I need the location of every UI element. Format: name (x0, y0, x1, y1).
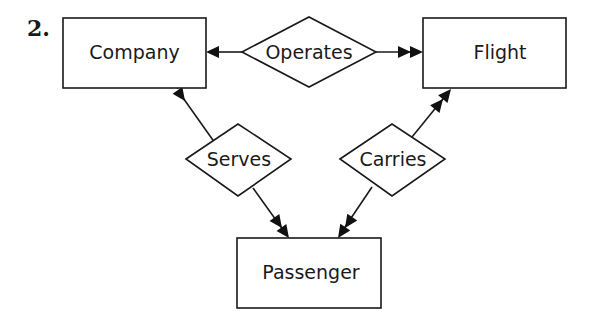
relationship-serves: Serves (186, 124, 291, 196)
arrowhead-icon (206, 46, 219, 58)
relationship-label: Carries (359, 148, 426, 170)
relationship-carries: Carries (340, 124, 445, 196)
edge-carries-flight (412, 85, 456, 137)
arrowhead-icon (173, 87, 190, 105)
edge-operates-company (206, 46, 242, 58)
entity-label: Passenger (262, 261, 360, 283)
entity-label: Company (89, 41, 179, 63)
er-diagram: 2. (0, 0, 597, 318)
arrowhead-icon (398, 46, 411, 58)
entity-company: Company (63, 18, 206, 88)
entity-label: Flight (473, 41, 526, 63)
entity-flight: Flight (423, 18, 566, 88)
entity-passenger: Passenger (237, 238, 381, 308)
figure-number: 2. (27, 15, 50, 41)
edge-serves-passenger (253, 188, 294, 242)
relationship-operates: Operates (242, 17, 376, 87)
relationship-label: Serves (207, 148, 271, 170)
arrowhead-icon (410, 46, 423, 58)
relationship-label: Operates (265, 41, 352, 63)
edge-operates-flight (376, 46, 423, 58)
edge-carries-passenger (333, 187, 372, 241)
